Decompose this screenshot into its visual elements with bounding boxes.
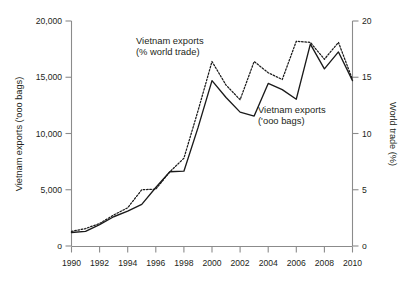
x-tick-label: 2010 [343,258,362,268]
left-tick-label: 15,000 [36,72,63,82]
annotation-ooo-bags-line: Vietnam exports [258,104,326,115]
x-tick-label: 1990 [62,258,81,268]
x-tick-label: 2000 [202,258,221,268]
x-tick-label: 1998 [174,258,193,268]
annotation-percent-world-trade: Vietnam exports(% world trade) [136,35,204,57]
right-tick-label: 20 [362,16,372,26]
x-tick-label: 1996 [146,258,165,268]
left-tick-label: o [57,241,62,251]
left-tick-label: 20,000 [36,16,63,26]
chart-container: o5,00010,00015,00020,000 o5101520 199019… [0,0,408,285]
x-tick-label: 2006 [287,258,306,268]
right-tick-label: 15 [362,72,372,82]
x-tick-label: 2008 [315,258,334,268]
left-tick-label: 10,000 [36,129,63,139]
left-tick-label: 5,000 [40,185,62,195]
x-tick-label: 2004 [259,258,278,268]
left-axis-title: Vietnam exports ('ooo bags) [14,77,24,191]
right-tick-label: 10 [362,129,372,139]
right-tick-label: o [362,241,367,251]
right-axis-title: World trade (%) [388,102,398,166]
coffee-exports-line-chart: o5,00010,00015,00020,000 o5101520 199019… [0,0,408,285]
x-axis-tick-labels: 1990199219941996199820002002200420062008… [62,258,362,268]
x-tick-label: 1994 [118,258,137,268]
right-tick-label: 5 [362,185,367,195]
x-tick-label: 1992 [90,258,109,268]
annotation-ooo-bags-line: ('ooo bags) [258,115,305,126]
annotation-percent-world-trade-line: (% world trade) [136,46,200,57]
x-tick-label: 2002 [231,258,250,268]
annotation-percent-world-trade-line: Vietnam exports [136,35,204,46]
